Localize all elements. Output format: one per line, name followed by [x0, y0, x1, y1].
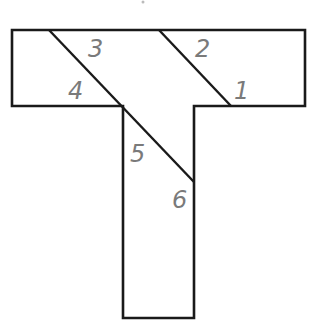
label-3: 3 — [88, 35, 103, 63]
label-1: 1 — [234, 77, 249, 105]
t-shape-outline — [12, 30, 305, 318]
top-mark — [142, 1, 145, 4]
label-2: 2 — [195, 35, 210, 63]
label-5: 5 — [130, 140, 145, 168]
t-shape-diagram: 1 2 3 4 5 6 — [0, 0, 319, 323]
label-6: 6 — [172, 186, 187, 214]
label-4: 4 — [68, 77, 83, 105]
